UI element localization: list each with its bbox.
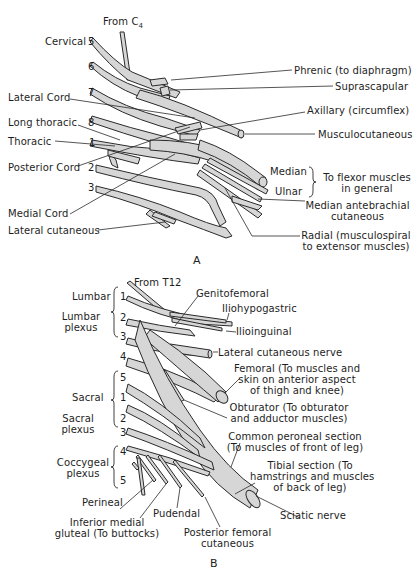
root-number-s3: 3	[120, 427, 126, 438]
cervical-label: Cervical	[45, 36, 86, 47]
axillary-label: Axillary (circumflex)	[307, 105, 409, 116]
root-number-s1: 1	[120, 392, 126, 403]
root-number-s5: 5	[120, 475, 126, 486]
medial-cord-label: Medial Cord	[8, 208, 68, 219]
root-number-c6: 6	[88, 61, 94, 72]
median-antebrachial-label: Median antebrachial cutaneous	[305, 200, 410, 222]
root-number-l2: 2	[120, 312, 126, 323]
genitofemoral-label: Genitofemoral	[196, 288, 269, 299]
perineal-label: Perineal	[82, 497, 123, 508]
from-c4-label: From C4	[103, 16, 143, 32]
root-number-c5: 5	[88, 36, 94, 47]
lateral-cord-label: Lateral Cord	[8, 92, 71, 103]
common-peroneal-label: Common peroneal section (To muscles of f…	[225, 431, 365, 453]
root-number-t3: 3	[88, 182, 94, 193]
posterior-cord-label: Posterior Cord	[8, 162, 80, 173]
pudendal-label: Pudendal	[153, 508, 200, 519]
root-number-l1: 1	[120, 291, 126, 302]
root-number-c8: 8	[88, 117, 94, 128]
root-number-l4: 4	[120, 351, 126, 362]
ilioinguinal-label: Ilioinguinal	[236, 326, 292, 337]
lateral-cutaneous-nerve-label: Lateral cutaneous nerve	[218, 347, 342, 358]
femoral-label: Femoral (To muscles and skin on anterior…	[232, 363, 362, 396]
root-number-c7: 7	[88, 87, 94, 98]
sacral-label: Sacral	[72, 392, 104, 403]
figure-a-caption: A	[193, 254, 201, 267]
posterior-femoral-cutaneous-label: Posterior femoral cutaneous	[180, 527, 275, 549]
flexor-muscles-label: To flexor muscles in general	[322, 172, 412, 194]
obturator-label: Obturator (To obturator and adductor mus…	[229, 402, 349, 424]
tibial-section-label: Tibial section (To hamstrings and muscle…	[250, 460, 370, 493]
from-t12-label: From T12	[134, 277, 182, 288]
musculocutaneous-label: Musculocutaneous	[318, 129, 413, 140]
sacral-plexus-label: Sacral plexus	[56, 413, 100, 435]
root-number-l3: 3	[120, 331, 126, 342]
root-number-l5: 5	[120, 372, 126, 383]
coccygeal-plexus-label: Coccygeal plexus	[54, 457, 112, 479]
phrenic-label: Phrenic (to diaphragm)	[294, 65, 412, 76]
long-thoracic-label: Long thoracic	[8, 117, 77, 128]
lateral-cutaneous-label: Lateral cutaneous	[8, 225, 100, 236]
lumbar-plexus-label: Lumbar plexus	[56, 311, 106, 333]
suprascapular-label: Suprascapular	[335, 81, 408, 92]
root-number-s4: 4	[120, 446, 126, 457]
root-number-t1: 1	[89, 137, 95, 148]
lumbar-label: Lumbar	[72, 291, 111, 302]
figure-b-caption: B	[210, 557, 218, 570]
inferior-medial-gluteal-label: Inferior medial gluteal (To buttocks)	[52, 517, 162, 539]
radial-label: Radial (musculospiral to extensor muscle…	[300, 230, 412, 252]
thoracic-label: Thoracic	[8, 136, 51, 147]
brachial-plexus-drawing	[90, 32, 268, 238]
sciatic-nerve-label: Sciatic nerve	[280, 510, 346, 521]
root-number-s2: 2	[120, 413, 126, 424]
ulnar-label: Ulnar	[275, 186, 302, 197]
root-number-t2: 2	[88, 162, 94, 173]
median-label: Median	[270, 166, 307, 177]
iliohypogastric-label: Iliohypogastric	[222, 303, 297, 314]
